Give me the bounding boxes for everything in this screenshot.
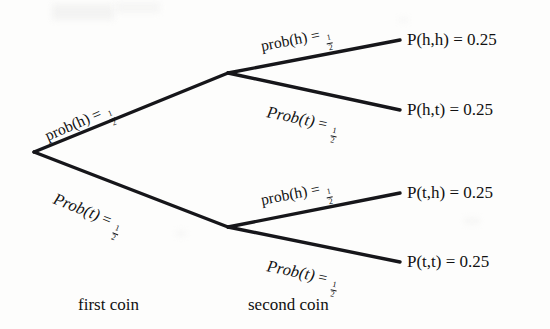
branch-line-second-tails-from-tails xyxy=(228,227,400,262)
branch-line-second-tails-from-heads xyxy=(228,73,400,110)
equals-sign: = xyxy=(309,26,321,44)
equals-sign: = xyxy=(100,209,114,228)
stage-caption-second-coin: second coin xyxy=(248,296,329,313)
equals-sign: = xyxy=(317,114,329,132)
outcome-label-ht: P(h,t) = 0.25 xyxy=(407,101,493,118)
stage-caption-first-coin: first coin xyxy=(78,296,139,313)
outcome-label-th: P(t,h) = 0.25 xyxy=(407,184,493,201)
equals-sign: = xyxy=(89,104,104,123)
outcome-label-tt: P(t,t) = 0.25 xyxy=(407,253,489,270)
outcome-label-hh: P(h,h) = 0.25 xyxy=(407,31,497,48)
probability-tree-diagram: prob(h) = 1 2 Prob(t) = 1 2 prob(h) = 1 … xyxy=(0,0,550,329)
equals-sign: = xyxy=(309,180,321,198)
equals-sign: = xyxy=(317,268,329,286)
